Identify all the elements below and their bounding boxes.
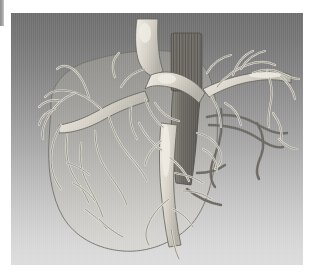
liver-vasculature-rendering [11,13,303,265]
branch-r10-outline [273,113,282,141]
page-gutter-strip [0,0,4,26]
highlight-confluence [158,74,176,84]
branch-r9 [207,55,231,73]
shadow-branch-4 [257,123,263,179]
render-panel [11,13,303,265]
page-canvas [0,0,317,275]
highlight-superior-trunk [139,23,151,43]
branch-r9-outline [207,55,231,73]
highlight-descending-trunk [162,125,170,177]
highlight-right-branch [249,72,281,78]
